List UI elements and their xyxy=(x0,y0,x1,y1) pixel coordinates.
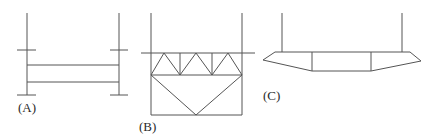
panel-c-deck-outline xyxy=(263,52,421,71)
panel-a-structure xyxy=(17,13,128,95)
panel-b-warren-truss xyxy=(151,53,242,75)
panel-b-v-brace xyxy=(151,75,242,115)
panel-a-label: (A) xyxy=(18,100,36,116)
panel-c-structure xyxy=(263,13,421,71)
panel-b-structure xyxy=(141,13,255,115)
diagram-canvas xyxy=(0,0,436,136)
panel-b-label: (B) xyxy=(139,119,156,135)
panel-c-label: (C) xyxy=(263,88,280,104)
